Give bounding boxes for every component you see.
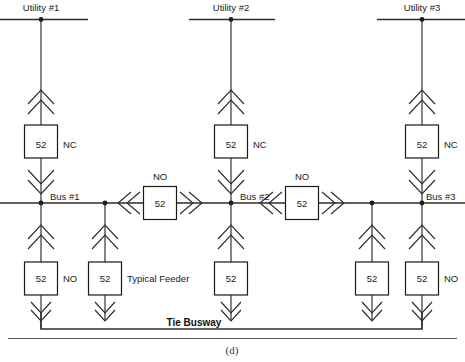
utility-3-branch: 52 NC: [377, 17, 465, 203]
feeder-breaker-5-annotation: NO: [444, 273, 458, 284]
feeder-breaker-2-number: 52: [100, 273, 111, 284]
one-line-diagram-svg: 52 NC 52 NC: [0, 0, 465, 362]
utility-3-label: Utility #3: [404, 2, 440, 13]
tie-breaker-2-number: 52: [297, 198, 308, 209]
feeder-breaker-4-number: 52: [367, 273, 378, 284]
figure-caption: (d): [226, 344, 239, 357]
main-breaker-1-state: NC: [63, 139, 77, 150]
tie-busway-label: Tie Busway: [167, 317, 222, 328]
bus-1-label: Bus #1: [50, 191, 80, 202]
main-breaker-3-state: NC: [444, 139, 458, 150]
feeder-1-group: 52 NO: [25, 203, 78, 329]
feeder-4-group: 52: [356, 203, 389, 321]
main-breaker-1-number: 52: [36, 139, 47, 150]
tie-breaker-2-group: 52 NO: [260, 171, 344, 220]
feeder-3-group: 52: [215, 203, 248, 321]
bus-2-label: Bus #2: [240, 191, 270, 202]
utility-2-branch: 52 NC: [189, 17, 275, 203]
feeder-2-group: 52 Typical Feeder: [89, 203, 190, 321]
main-breaker-3-number: 52: [417, 139, 428, 150]
feeder-breaker-1-annotation: NO: [63, 273, 77, 284]
main-breaker-2-number: 52: [226, 139, 237, 150]
utility-2-label: Utility #2: [213, 2, 249, 13]
tie-breaker-1-group: 52 NO: [118, 171, 202, 220]
feeder-breaker-3-number: 52: [226, 273, 237, 284]
bus-3-label: Bus #3: [426, 191, 456, 202]
feeder-breaker-1-number: 52: [36, 273, 47, 284]
tie-breaker-1-number: 52: [155, 198, 166, 209]
tie-breaker-2-state: NO: [295, 171, 309, 182]
utility-1-branch: 52 NC: [0, 17, 88, 203]
feeder-breaker-5-number: 52: [417, 273, 428, 284]
tie-breaker-1-state: NO: [153, 171, 167, 182]
feeder-5-group: 52 NO: [406, 203, 459, 329]
one-line-diagram: 52 NC 52 NC: [0, 0, 465, 362]
feeder-breaker-2-annotation: Typical Feeder: [127, 273, 189, 284]
utility-1-label: Utility #1: [23, 2, 59, 13]
main-breaker-2-state: NC: [253, 139, 267, 150]
